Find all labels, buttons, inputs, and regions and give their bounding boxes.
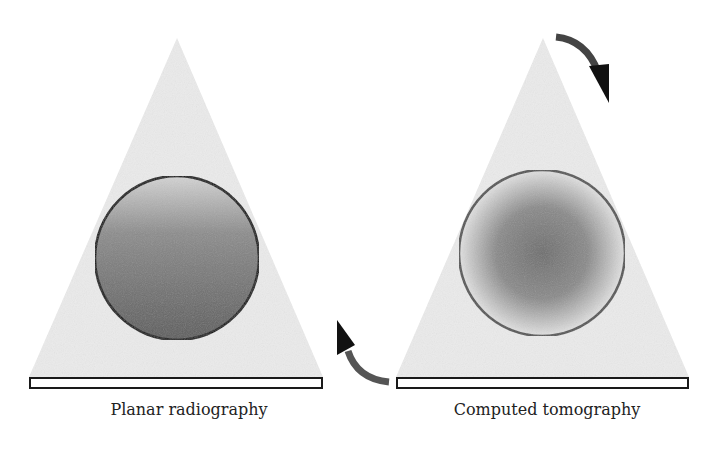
computed-tomography-panel — [396, 38, 689, 388]
planar-radiography-panel — [29, 38, 323, 388]
counterclockwise-arrow-icon — [337, 320, 389, 382]
caption-computed-tomography: Computed tomography — [397, 400, 697, 419]
object-cross-section — [459, 170, 625, 336]
detector-bar — [30, 378, 322, 388]
object-sphere — [95, 176, 259, 340]
diagram-canvas — [0, 0, 716, 457]
detector-bar — [397, 378, 688, 388]
caption-planar-radiography: Planar radiography — [39, 400, 339, 419]
